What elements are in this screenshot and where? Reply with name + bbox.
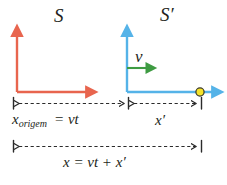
event-point-marker	[196, 88, 204, 96]
x-total-equation-label: x = vt + x′	[63, 155, 126, 170]
x-prime-label: x′	[155, 113, 165, 128]
frame-s-axes	[17, 34, 88, 92]
x-origem-subscript: origem	[19, 118, 47, 129]
velocity-label: v	[135, 48, 143, 65]
frame-s-label: S	[54, 6, 64, 25]
measurement-x-total	[14, 141, 202, 153]
galilean-transformation-diagram: S S′ v xorigem= vt x′ x = vt + x′	[0, 0, 227, 185]
measurement-x-prime	[129, 98, 202, 110]
frame-sprime-label: S′	[160, 5, 174, 24]
x-origem-base: x	[12, 111, 19, 127]
measurement-x-origem	[14, 98, 125, 110]
x-origem-equation-label: xorigem= vt	[12, 112, 79, 129]
x-origem-equals-vt: = vt	[54, 111, 79, 127]
